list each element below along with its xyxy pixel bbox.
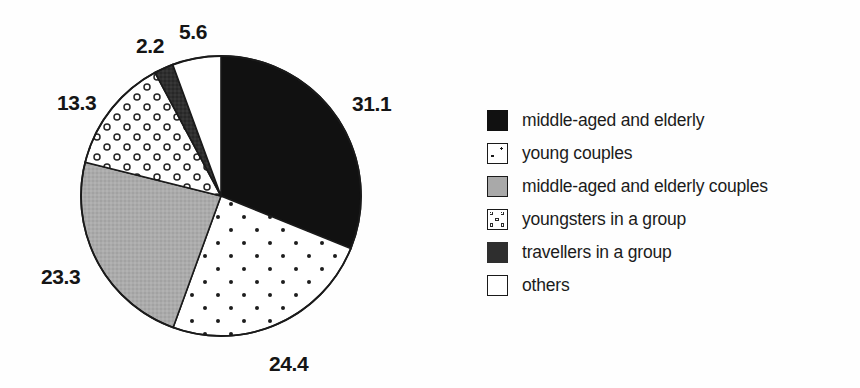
pie-chart-figure: 31.124.423.313.32.25.6 middle-aged and e… — [0, 0, 860, 388]
legend-item-middle-aged-and-elderly-couples[interactable]: middle-aged and elderly couples — [487, 170, 847, 203]
pie-chart-plot-area: 31.124.423.313.32.25.6 — [0, 0, 440, 388]
pie-chart-svg — [0, 0, 440, 388]
legend-label-young-couples: young couples — [522, 143, 632, 164]
legend-label-middle-aged-and-elderly: middle-aged and elderly — [522, 110, 704, 131]
legend-item-others[interactable]: others — [487, 269, 847, 302]
legend-label-middle-aged-and-elderly-couples: middle-aged and elderly couples — [522, 176, 768, 197]
legend-label-travellers-in-a-group: travellers in a group — [522, 242, 672, 263]
legend-swatch-middle-aged-and-elderly — [487, 110, 508, 131]
pie-value-label-13-3: 13.3 — [57, 92, 96, 113]
legend-item-travellers-in-a-group[interactable]: travellers in a group — [487, 236, 847, 269]
legend-swatch-youngsters-in-a-group — [487, 209, 508, 230]
pie-slices-group — [81, 56, 361, 336]
legend-swatch-others — [487, 275, 508, 296]
legend-label-others: others — [522, 275, 569, 296]
pie-value-label-24-4: 24.4 — [269, 353, 308, 374]
legend-item-youngsters-in-a-group[interactable]: youngsters in a group — [487, 203, 847, 236]
pie-value-label-2-2: 2.2 — [136, 35, 164, 56]
legend-label-youngsters-in-a-group: youngsters in a group — [522, 209, 686, 230]
legend: middle-aged and elderlyyoung couplesmidd… — [487, 104, 847, 302]
legend-swatch-middle-aged-and-elderly-couples — [487, 176, 508, 197]
pie-value-label-31-1: 31.1 — [352, 93, 391, 114]
pie-value-label-23-3: 23.3 — [41, 266, 80, 287]
pie-value-label-5-6: 5.6 — [179, 21, 207, 42]
legend-swatch-travellers-in-a-group — [487, 242, 508, 263]
legend-item-middle-aged-and-elderly[interactable]: middle-aged and elderly — [487, 104, 847, 137]
legend-item-young-couples[interactable]: young couples — [487, 137, 847, 170]
legend-swatch-young-couples — [487, 143, 508, 164]
